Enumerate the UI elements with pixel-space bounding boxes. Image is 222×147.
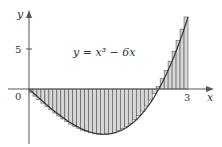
riemann-rectangle (144, 89, 148, 106)
riemann-rectangle (140, 89, 144, 111)
riemann-rectangle (61, 89, 65, 119)
riemann-rectangle (124, 89, 128, 126)
riemann-rectangle (132, 89, 136, 120)
plot-canvas: y x 5 0 3 y = x³ − 6x (0, 0, 222, 147)
y-axis-label: y (16, 8, 24, 21)
riemann-rectangle (112, 89, 116, 132)
x-tick-label-3: 3 (184, 92, 190, 103)
riemann-rectangle (101, 89, 105, 134)
riemann-rectangle (128, 89, 132, 123)
riemann-rectangle (164, 70, 168, 89)
riemann-rectangle (176, 41, 180, 89)
origin-label: 0 (15, 91, 21, 102)
y-tick-label-5: 5 (15, 44, 21, 55)
riemann-rectangle (93, 89, 97, 134)
riemann-rectangle (97, 89, 101, 134)
riemann-rectangle (148, 89, 152, 100)
riemann-rectangle (152, 89, 156, 94)
riemann-rectangle (85, 89, 89, 132)
riemann-rectangle (136, 89, 140, 116)
riemann-rectangle (77, 89, 81, 128)
riemann-rectangle (109, 89, 113, 133)
riemann-rectangle (105, 89, 109, 134)
riemann-rectangle (120, 89, 124, 129)
function-label: y = x³ − 6x (72, 46, 136, 59)
riemann-rectangles (29, 17, 188, 134)
riemann-rectangle (69, 89, 73, 124)
riemann-rectangle (89, 89, 93, 133)
y-axis-arrow-icon (26, 10, 32, 18)
riemann-rectangle (57, 89, 61, 116)
riemann-rectangle (65, 89, 69, 122)
riemann-rectangle (81, 89, 85, 130)
riemann-rectangle (53, 89, 57, 113)
riemann-rectangle (116, 89, 120, 131)
x-axis-label: x (207, 91, 214, 104)
riemann-rectangle (73, 89, 77, 126)
riemann-sum-figure: y x 5 0 3 y = x³ − 6x (0, 0, 222, 147)
